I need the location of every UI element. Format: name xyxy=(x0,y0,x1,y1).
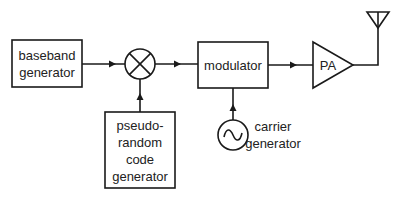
pa-label: PA xyxy=(320,58,337,73)
baseband-generator-block: baseband generator xyxy=(12,40,82,87)
arrow-head-icon xyxy=(109,61,116,68)
arrow-head-icon xyxy=(137,93,144,100)
connector-baseband-to-mixer xyxy=(82,61,125,68)
block-diagram: baseband generator pseudo- random code g… xyxy=(0,0,400,199)
pn-label-line1: pseudo- xyxy=(117,118,164,133)
pn-label-line2: random xyxy=(118,135,162,150)
connector-pa-to-antenna xyxy=(353,28,378,65)
mixer-symbol-icon xyxy=(125,49,155,79)
baseband-label-line1: baseband xyxy=(18,48,75,63)
antenna-icon xyxy=(367,12,389,28)
connector-modulator-to-pa xyxy=(268,62,313,69)
modulator-label: modulator xyxy=(204,58,262,73)
pn-label-line4: generator xyxy=(112,169,168,184)
arrow-head-icon xyxy=(174,61,181,68)
modulator-block: modulator xyxy=(198,42,268,88)
arrow-head-icon xyxy=(290,62,297,69)
connector-pn-to-mixer xyxy=(137,79,144,112)
carrier-label-line1: carrier xyxy=(255,119,293,134)
pseudo-random-code-generator-block: pseudo- random code generator xyxy=(105,112,175,188)
carrier-label-line2: generator xyxy=(245,136,301,151)
connector-carrier-to-modulator xyxy=(230,88,237,120)
arrow-head-icon xyxy=(230,104,237,111)
carrier-generator-block: carrier generator xyxy=(218,119,301,151)
pn-label-line3: code xyxy=(126,152,154,167)
power-amplifier-block: PA xyxy=(313,42,353,88)
baseband-label-line2: generator xyxy=(19,65,75,80)
connector-mixer-to-modulator xyxy=(155,61,198,68)
